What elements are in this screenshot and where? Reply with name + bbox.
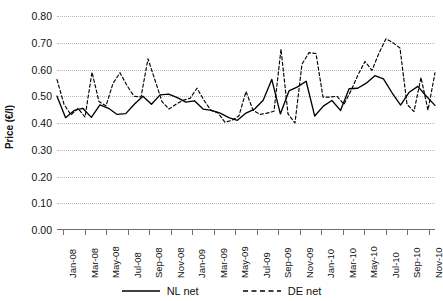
x-axis-tick	[364, 230, 365, 235]
y-axis-tick-label: 0.40	[32, 117, 52, 129]
x-axis-tick	[257, 230, 258, 235]
x-axis-tick	[300, 230, 301, 235]
y-axis-tick-label: 0.50	[32, 90, 52, 102]
y-axis-title: Price (€/l)	[2, 72, 16, 182]
y-axis-tick-label: 0.70	[32, 37, 52, 49]
plot-area: 0.000.100.200.300.400.500.600.700.80 Jan…	[57, 16, 435, 230]
x-axis-tick	[235, 230, 236, 235]
line-chart: Price (€/l) 0.000.100.200.300.400.500.60…	[0, 0, 443, 301]
x-axis-tick	[321, 230, 322, 235]
x-axis-tick	[386, 230, 387, 235]
chart-legend: NL net DE net	[0, 285, 443, 297]
legend-label-nl-net: NL net	[167, 285, 199, 297]
x-axis-tick	[278, 230, 279, 235]
legend-item-de-net: DE net	[243, 285, 322, 297]
y-axis-tick-label: 0.30	[32, 144, 52, 156]
y-axis-tick-label: 0.00	[32, 224, 52, 236]
x-axis-tick	[343, 230, 344, 235]
x-axis-tick	[192, 230, 193, 235]
x-axis-tick	[171, 230, 172, 235]
x-axis-tick	[106, 230, 107, 235]
x-axis-tick	[214, 230, 215, 235]
y-axis-tick-label: 0.20	[32, 171, 52, 183]
x-axis-tick	[128, 230, 129, 235]
y-axis-tick-label: 0.10	[32, 197, 52, 209]
legend-item-nl-net: NL net	[122, 285, 199, 297]
series-line-de-net	[57, 39, 435, 123]
series-lines	[57, 16, 435, 230]
x-axis-tick	[429, 230, 430, 235]
x-axis-tick	[63, 230, 64, 235]
legend-label-de-net: DE net	[288, 285, 322, 297]
y-axis-tick-label: 0.60	[32, 64, 52, 76]
legend-swatch-solid	[122, 287, 160, 295]
y-axis-tick-label: 0.80	[32, 10, 52, 22]
legend-swatch-dashed	[243, 287, 281, 295]
x-axis-tick	[149, 230, 150, 235]
x-axis-tick	[407, 230, 408, 235]
x-axis-tick	[85, 230, 86, 235]
